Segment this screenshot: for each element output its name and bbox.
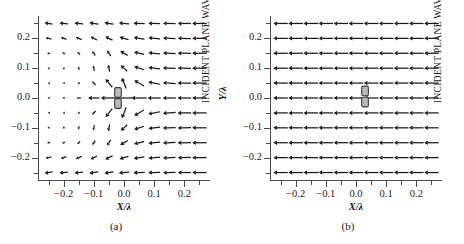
field-vector (288, 155, 303, 159)
x-tick-minor (79, 181, 80, 185)
field-vector (288, 81, 303, 85)
field-vector (364, 81, 379, 85)
scatterer-segment (115, 99, 122, 109)
field-vector (394, 66, 409, 70)
y-tick-minor (266, 143, 270, 144)
field-vector (379, 170, 394, 174)
field-vector (409, 126, 424, 130)
field-vector (148, 21, 160, 25)
y-tick-label: −0.2 (0, 151, 30, 162)
panel-a-caption: (a) (0, 220, 232, 232)
field-vector (273, 81, 288, 85)
field-vector (273, 66, 288, 70)
field-vector (349, 36, 364, 40)
y-tick-label: 0.1 (202, 61, 262, 72)
x-tick-label: 0.2 (164, 188, 204, 199)
y-tick-major (264, 98, 270, 99)
field-vector (349, 51, 364, 55)
x-tick-minor (169, 181, 170, 185)
field-vector (394, 21, 409, 25)
field-vector (48, 82, 50, 84)
field-vector (319, 111, 334, 115)
scatterer-segment (362, 86, 369, 96)
field-vector (148, 36, 160, 40)
field-vector (349, 170, 364, 174)
field-vector (148, 170, 160, 174)
field-vector (349, 81, 364, 85)
field-vector (394, 81, 409, 85)
field-vector (334, 96, 349, 100)
field-vector (63, 111, 65, 113)
field-vector (192, 170, 207, 174)
field-vector (334, 66, 349, 70)
field-vector (163, 141, 175, 145)
field-vector (178, 66, 191, 70)
field-vector (364, 36, 379, 40)
field-vector (63, 82, 65, 84)
field-vector (349, 21, 364, 25)
y-tick-label: −0.1 (0, 121, 30, 132)
field-vector (104, 21, 113, 25)
y-tick-minor (266, 23, 270, 24)
x-tick-minor (371, 181, 372, 185)
y-tick-minor (34, 23, 38, 24)
panel-b-incident-wave-label: INCIDENT PLANE WAVE (433, 0, 443, 103)
field-vector (288, 51, 303, 55)
field-vector (409, 51, 424, 55)
field-vector (349, 126, 364, 130)
field-vector (379, 126, 394, 130)
field-vector (46, 37, 52, 40)
field-vector (349, 111, 364, 115)
y-tick-major (264, 128, 270, 129)
field-vector (394, 51, 409, 55)
field-vector (107, 124, 111, 131)
field-vector (303, 155, 318, 159)
field-vector (288, 126, 303, 130)
field-vector (62, 52, 65, 54)
field-vector (91, 36, 97, 40)
field-vector (394, 170, 409, 174)
field-vector (334, 21, 349, 25)
y-tick-label: 0.0 (202, 91, 262, 102)
y-tick-minor (266, 53, 270, 54)
panel-b-caption: (b) (232, 220, 464, 232)
field-vector (148, 156, 160, 160)
x-tick-major (356, 181, 357, 187)
field-vector (92, 66, 95, 71)
field-vector (178, 81, 192, 85)
field-vector (379, 36, 394, 40)
field-vector (106, 79, 113, 87)
field-vector (59, 170, 67, 174)
x-tick-major (64, 181, 65, 187)
field-vector (364, 170, 379, 174)
field-vector (62, 97, 64, 99)
field-vector (163, 51, 175, 55)
figure-vector-field-comparison: 0.20.10.0−0.1−0.2−0.2−0.10.00.10.2 X/λ Y… (0, 0, 464, 244)
field-vector (89, 170, 98, 174)
y-tick-minor (34, 83, 38, 84)
field-vector (178, 155, 191, 159)
panel-a: 0.20.10.0−0.1−0.2−0.2−0.10.00.10.2 X/λ Y… (0, 0, 232, 244)
field-vector (334, 140, 349, 144)
field-vector (273, 51, 288, 55)
field-vector (364, 51, 379, 55)
field-vector (163, 156, 175, 160)
field-vector (273, 140, 288, 144)
y-tick-major (32, 158, 38, 159)
field-vector (288, 21, 303, 25)
field-vector (121, 125, 127, 131)
field-vector (319, 81, 334, 85)
field-vector (134, 36, 145, 40)
field-vector (364, 126, 379, 130)
field-vector (364, 155, 379, 159)
field-vector (409, 96, 424, 100)
field-vector (74, 21, 83, 25)
panel-b-yaxis-title: Y/λ (217, 87, 228, 101)
field-vector (134, 126, 144, 130)
field-vector (107, 51, 111, 57)
field-vector (134, 110, 144, 116)
field-vector (48, 67, 50, 69)
field-vector (334, 51, 349, 55)
field-vector (178, 141, 191, 145)
field-vector (364, 66, 379, 70)
